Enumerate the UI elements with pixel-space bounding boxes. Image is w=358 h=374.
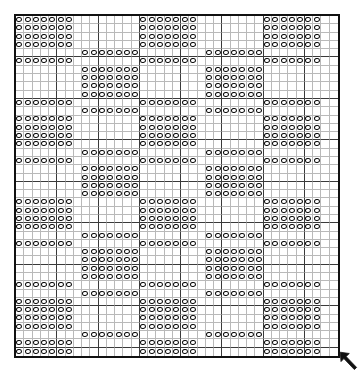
grid-cell xyxy=(198,215,206,223)
grid-cell xyxy=(16,215,24,223)
grid-cell xyxy=(140,315,148,323)
grid-cell xyxy=(90,165,98,173)
grid-cell xyxy=(280,281,288,289)
grid-cell xyxy=(231,207,239,215)
grid-cell xyxy=(206,223,214,231)
grid-cell xyxy=(16,57,24,65)
grid-cell xyxy=(239,190,247,198)
grid-cell xyxy=(132,232,140,240)
grid-cell xyxy=(16,298,24,306)
grid-cell xyxy=(206,232,214,240)
grid-cell xyxy=(57,190,65,198)
grid-cell xyxy=(165,232,173,240)
grid-cell xyxy=(140,49,148,57)
grid-cell xyxy=(330,306,338,314)
grid-cell xyxy=(214,107,222,115)
grid-cell xyxy=(173,57,181,65)
grid-cell xyxy=(24,16,32,24)
grid-cell xyxy=(49,116,57,124)
grid-cell xyxy=(297,33,305,41)
grid-cell xyxy=(313,107,321,115)
grid-cell xyxy=(288,240,296,248)
grid-cell xyxy=(123,256,131,264)
grid-cell xyxy=(321,165,329,173)
grid-cell xyxy=(264,165,272,173)
grid-cell xyxy=(140,99,148,107)
grid-cell xyxy=(99,33,107,41)
grid-cell xyxy=(132,149,140,157)
grid-cell xyxy=(49,140,57,148)
grid-cell xyxy=(90,190,98,198)
grid-cell xyxy=(189,91,197,99)
grid-cell xyxy=(222,348,230,356)
grid-cell xyxy=(198,57,206,65)
grid-cell xyxy=(90,348,98,356)
grid-cell xyxy=(231,331,239,339)
grid-cell xyxy=(173,149,181,157)
grid-cell xyxy=(41,107,49,115)
grid-cell xyxy=(82,140,90,148)
grid-cell xyxy=(33,57,41,65)
grid-cell xyxy=(16,107,24,115)
grid-cell xyxy=(222,82,230,90)
grid-cell xyxy=(165,16,173,24)
grid-cell xyxy=(41,116,49,124)
grid-cell xyxy=(24,132,32,140)
grid-cell xyxy=(239,41,247,49)
grid-cell xyxy=(16,232,24,240)
grid-cell xyxy=(231,298,239,306)
grid-cell xyxy=(173,49,181,57)
grid-cell xyxy=(140,331,148,339)
grid-cell xyxy=(280,265,288,273)
grid-cell xyxy=(132,248,140,256)
grid-cell xyxy=(115,33,123,41)
grid-cell xyxy=(189,157,197,165)
grid-cell xyxy=(255,132,263,140)
grid-cell xyxy=(305,82,313,90)
grid-cell xyxy=(82,165,90,173)
grid-cell xyxy=(165,281,173,289)
grid-cell xyxy=(272,82,280,90)
grid-cell xyxy=(156,66,164,74)
grid-cell xyxy=(123,315,131,323)
grid-cell xyxy=(206,281,214,289)
grid-cell xyxy=(330,174,338,182)
grid-cell xyxy=(66,57,74,65)
grid-cell xyxy=(272,16,280,24)
grid-cell xyxy=(115,174,123,182)
grid-cell xyxy=(49,91,57,99)
grid-cell xyxy=(24,82,32,90)
grid-cell xyxy=(123,248,131,256)
grid-cell xyxy=(264,306,272,314)
grid-cell xyxy=(206,99,214,107)
grid-cell xyxy=(24,323,32,331)
grid-cell xyxy=(222,157,230,165)
grid-cell xyxy=(99,91,107,99)
grid-cell xyxy=(99,57,107,65)
grid-cell xyxy=(16,24,24,32)
grid-cell xyxy=(41,140,49,148)
grid-cell xyxy=(49,207,57,215)
grid-cell xyxy=(74,66,82,74)
grid-cell xyxy=(198,198,206,206)
grid-cell xyxy=(264,223,272,231)
grid-cell xyxy=(107,215,115,223)
grid-cell xyxy=(99,281,107,289)
grid-cell xyxy=(156,174,164,182)
grid-cell xyxy=(74,306,82,314)
grid-cell xyxy=(90,107,98,115)
grid-cell xyxy=(321,74,329,82)
grid-cell xyxy=(165,107,173,115)
grid-cell xyxy=(264,24,272,32)
grid-cell xyxy=(148,339,156,347)
grid-cell xyxy=(305,99,313,107)
grid-cell xyxy=(49,157,57,165)
grid-cell xyxy=(305,24,313,32)
grid-cell xyxy=(288,248,296,256)
grid-cell xyxy=(66,107,74,115)
grid-cell xyxy=(123,348,131,356)
grid-cell xyxy=(255,157,263,165)
grid-cell xyxy=(24,149,32,157)
grid-cell xyxy=(49,74,57,82)
grid-cell xyxy=(189,132,197,140)
